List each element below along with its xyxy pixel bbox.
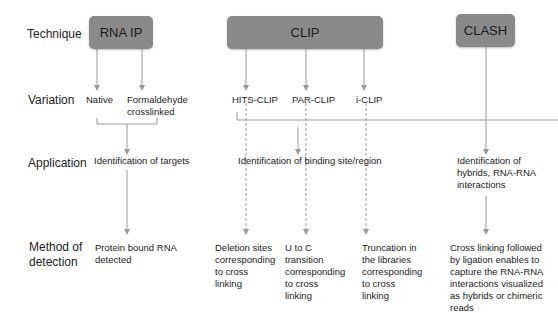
detection-iclip-line3: corresponding — [362, 266, 422, 277]
technique-box-clash: CLASH — [456, 14, 515, 47]
detection-rna-ip-line1: Protein bound RNA — [95, 242, 177, 253]
detection-clash-line2: by ligation enables to — [450, 254, 539, 265]
application-clash-line1: Identification of — [457, 155, 521, 166]
detection-clash-line3: capture the RNA-RNA — [450, 266, 543, 277]
detection-par-line4: to cross — [285, 278, 318, 289]
variation-formaldehyde-line2: crosslinked — [127, 106, 175, 117]
detection-par-line2: transition — [285, 254, 324, 265]
detection-hits-line4: linking — [215, 278, 242, 289]
application-clash-line3: interactions — [457, 179, 506, 190]
detection-clash-line1: Cross linking followed — [450, 242, 542, 253]
detection-rna-ip-line2: detected — [95, 254, 131, 265]
detection-hits-line1: Deletion sites — [215, 242, 272, 253]
detection-iclip-line2: the libraries — [362, 254, 411, 265]
row-label-application: Application — [28, 156, 87, 171]
technique-box-clip: CLIP — [227, 16, 383, 49]
row-label-method-line1: Method of — [29, 240, 82, 255]
detection-clash-line5: as hybrids or chimeric — [450, 290, 542, 301]
variation-native: Native — [86, 94, 113, 105]
detection-iclip-line1: Truncation in — [362, 242, 417, 253]
detection-hits-line2: corresponding — [215, 254, 275, 265]
application-rna-ip: Identification of targets — [94, 155, 190, 166]
detection-par-line1: U to C — [285, 242, 312, 253]
variation-hits-clip: HITS-CLIP — [232, 94, 278, 105]
detection-par-line3: corresponding — [285, 266, 345, 277]
detection-par-line5: linking — [285, 290, 312, 301]
detection-iclip-line4: to cross — [362, 278, 395, 289]
detection-clash-line6: reads — [450, 302, 474, 313]
detection-hits-line3: to cross — [215, 266, 248, 277]
variation-par-clip: PAR-CLIP — [292, 94, 335, 105]
detection-iclip-line5: linking — [362, 290, 389, 301]
application-clash-line2: hybrids, RNA-RNA — [457, 167, 536, 178]
variation-i-clip: i-CLIP — [356, 94, 382, 105]
technique-label-clash: CLASH — [464, 23, 507, 38]
application-clip: Identification of binding site/region — [238, 155, 382, 166]
technique-label-clip: CLIP — [291, 25, 320, 40]
technique-label-rna-ip: RNA IP — [100, 25, 143, 40]
row-label-variation: Variation — [28, 93, 74, 108]
row-label-technique: Technique — [27, 27, 82, 42]
technique-box-rna-ip: RNA IP — [89, 16, 153, 49]
detection-clash-line4: interactions visualized — [450, 278, 543, 289]
variation-formaldehyde: Formaldehyde — [127, 94, 188, 105]
row-label-method-line2: detection — [29, 255, 78, 270]
